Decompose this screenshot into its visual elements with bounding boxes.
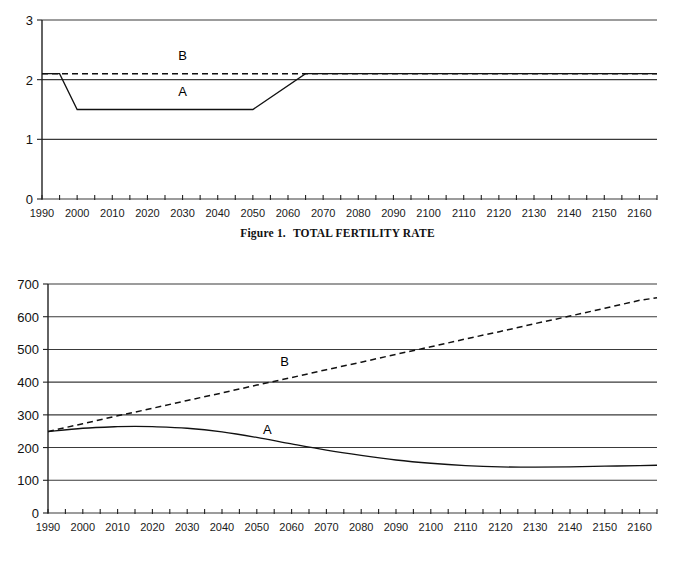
figure-2-series-label-a: A xyxy=(263,422,272,437)
figure-2-ytick-label: 300 xyxy=(17,408,39,423)
figure-1-xtick-label: 1990 xyxy=(30,207,54,219)
figure-1-xtick-label: 2000 xyxy=(65,207,89,219)
figure-1-xtick-label: 2150 xyxy=(592,207,616,219)
figure-1-xtick-label: 2020 xyxy=(135,207,159,219)
figure-2-xtick-label: 2160 xyxy=(627,521,651,533)
figure-2-ytick-label: 400 xyxy=(17,375,39,390)
figure-1-xtick-label: 2110 xyxy=(452,207,476,219)
figure-1-xtick-label: 2010 xyxy=(100,207,124,219)
figure-2-ytick-label: 600 xyxy=(17,310,39,325)
figure-2-ytick-label: 500 xyxy=(17,342,39,357)
figure-2-xtick-label: 2130 xyxy=(523,521,547,533)
figure-1-xtick-label: 2130 xyxy=(522,207,546,219)
figure-2-xtick-label: 2110 xyxy=(454,521,478,533)
figure-2-xtick-label: 2100 xyxy=(419,521,443,533)
figure-2-xtick-label: 2030 xyxy=(175,521,199,533)
figure-2-xtick-label: 2090 xyxy=(384,521,408,533)
figure-1-xtick-label: 2070 xyxy=(311,207,335,219)
figure-1-xtick-label: 2160 xyxy=(627,207,651,219)
figure-2-xtick-label: 2050 xyxy=(245,521,269,533)
figure-2-xtick-label: 2070 xyxy=(314,521,338,533)
figure-2-xtick-label: 2040 xyxy=(210,521,234,533)
figure-1-xtick-label: 2030 xyxy=(170,207,194,219)
figure-2-ytick-label: 0 xyxy=(32,506,39,521)
figure-1-caption-title: TOTAL FERTILITY RATE xyxy=(293,227,435,239)
figure-1-chart: 0123199020002010202020302040205020602070… xyxy=(0,0,675,225)
figure-2-series-b xyxy=(48,298,657,432)
figure-2-series-a xyxy=(48,426,657,467)
figure-1-ytick-label: 3 xyxy=(26,13,33,28)
figure-2-ytick-label: 200 xyxy=(17,441,39,456)
figure-1-ytick-label: 0 xyxy=(26,192,33,207)
figure-2-xtick-label: 2010 xyxy=(105,521,129,533)
figure-2-xtick-label: 2000 xyxy=(71,521,95,533)
figure-2-xtick-label: 2120 xyxy=(488,521,512,533)
figure-1-caption: Figure 1.TOTAL FERTILITY RATE xyxy=(0,227,675,239)
figure-2-series-label-b: B xyxy=(280,354,289,369)
figure-2-xtick-label: 1990 xyxy=(36,521,60,533)
figure-1-xtick-label: 2060 xyxy=(276,207,300,219)
figure-1-series-a xyxy=(42,74,657,110)
figure-1-ytick-label: 2 xyxy=(26,73,33,88)
figure-1: 0123199020002010202020302040205020602070… xyxy=(0,0,675,250)
figure-2-xtick-label: 2060 xyxy=(279,521,303,533)
figure-2-ytick-label: 700 xyxy=(17,277,39,292)
figure-1-xtick-label: 2080 xyxy=(346,207,370,219)
figure-1-xtick-label: 2140 xyxy=(557,207,581,219)
figure-1-xtick-label: 2050 xyxy=(241,207,265,219)
figure-2-xtick-label: 2020 xyxy=(140,521,164,533)
figure-1-caption-number: Figure 1. xyxy=(240,227,286,239)
figure-2-chart: 0100200300400500600700199020002010202020… xyxy=(0,250,675,550)
figure-2-xtick-label: 2140 xyxy=(558,521,582,533)
figures-page: 0123199020002010202020302040205020602070… xyxy=(0,0,675,581)
figure-1-ytick-label: 1 xyxy=(26,132,33,147)
figure-1-xtick-label: 2090 xyxy=(381,207,405,219)
figure-2-ytick-label: 100 xyxy=(17,473,39,488)
figure-1-series-label-a: A xyxy=(178,84,187,99)
figure-2-xtick-label: 2150 xyxy=(593,521,617,533)
figure-1-xtick-label: 2100 xyxy=(416,207,440,219)
figure-1-series-label-b: B xyxy=(178,48,187,63)
figure-2: 0100200300400500600700199020002010202020… xyxy=(0,250,675,581)
figure-1-xtick-label: 2120 xyxy=(487,207,511,219)
figure-2-xtick-label: 2080 xyxy=(349,521,373,533)
figure-1-xtick-label: 2040 xyxy=(205,207,229,219)
